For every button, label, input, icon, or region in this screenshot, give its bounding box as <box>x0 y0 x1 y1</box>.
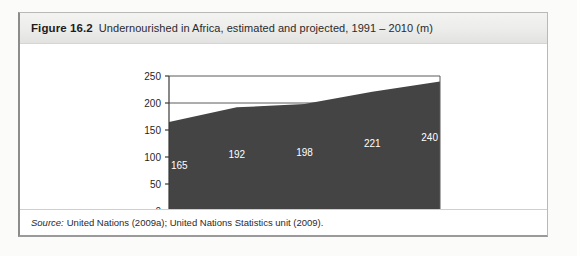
y-axis-tick-label: 100 <box>144 152 161 163</box>
y-axis-tick-label: 250 <box>144 71 161 82</box>
data-point-label: 165 <box>171 160 188 171</box>
figure-container: Figure 16.2 Undernourished in Africa, es… <box>18 12 548 237</box>
data-point-label: 240 <box>421 132 438 143</box>
figure-header: Figure 16.2 Undernourished in Africa, es… <box>20 13 547 44</box>
y-axis-tick-label: 200 <box>144 98 161 109</box>
source-label: Source: <box>31 217 64 228</box>
data-point-label: 221 <box>364 138 381 149</box>
source-citation: United Nations (2009a); United Nations S… <box>67 217 324 228</box>
y-axis-tick-label: 150 <box>144 125 161 136</box>
figure-number: Figure 16.2 <box>31 22 93 34</box>
data-point-label: 192 <box>228 149 245 160</box>
data-point-label: 198 <box>296 147 313 158</box>
figure-source: Source: United Nations (2009a); United N… <box>20 209 547 235</box>
area-chart: 0501001502002501991199620012005201016519… <box>20 44 550 212</box>
y-axis-tick-label: 50 <box>150 179 162 190</box>
chart-region: 0501001502002501991199620012005201016519… <box>20 44 547 209</box>
figure-title: Undernourished in Africa, estimated and … <box>99 22 433 34</box>
